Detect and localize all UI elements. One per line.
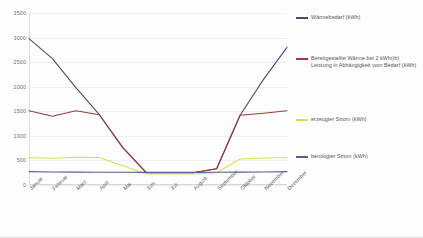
y-axis-tick-label: 1000	[14, 133, 26, 139]
legend-color-swatch	[296, 17, 308, 19]
legend-label: benötigter Strom (kWh)	[311, 153, 368, 160]
legend-color-swatch	[296, 156, 308, 158]
legend-item[interactable]: erzeugter Strom (kWh)	[296, 116, 421, 123]
legend-item[interactable]: Bereitgestellte Wärme bei 2 kWh(th) Leis…	[296, 55, 421, 70]
x-axis-tick-labels: JanuarFebruarMärzAprilMaiJuniJuliAugustS…	[29, 187, 287, 237]
y-axis-tick-labels: 0500100015002000250030003500	[0, 13, 26, 185]
legend-label: erzeugter Strom (kWh)	[311, 116, 367, 123]
series-line	[29, 39, 287, 173]
legend-color-swatch	[296, 58, 308, 60]
series-line	[29, 111, 287, 173]
legend-label: Bereitgestellte Wärme bei 2 kWh(th) Leis…	[311, 55, 421, 70]
series-lines	[29, 13, 287, 185]
series-line	[29, 157, 287, 174]
chart-legend: Wärmebedarf (kWh)Bereitgestellte Wärme b…	[294, 0, 423, 238]
y-axis-tick-label: 2000	[14, 84, 26, 90]
plot-wrapper: 0500100015002000250030003500 JanuarFebru…	[0, 0, 292, 238]
legend-item[interactable]: Wärmebedarf (kWh)	[296, 14, 421, 21]
y-axis-tick-label: 2500	[14, 59, 26, 65]
legend-item[interactable]: benötigter Strom (kWh)	[296, 153, 421, 160]
legend-label: Wärmebedarf (kWh)	[311, 14, 360, 21]
y-axis-tick-label: 0	[23, 182, 26, 188]
y-axis-tick-label: 3500	[14, 10, 26, 16]
y-axis-tick-label: 1500	[14, 108, 26, 114]
y-axis-tick-label: 500	[17, 157, 26, 163]
plot-area	[29, 13, 287, 185]
legend-color-swatch	[296, 119, 308, 121]
line-chart: 0500100015002000250030003500 JanuarFebru…	[0, 0, 423, 238]
series-line	[29, 172, 287, 173]
y-axis-tick-label: 3000	[14, 35, 26, 41]
